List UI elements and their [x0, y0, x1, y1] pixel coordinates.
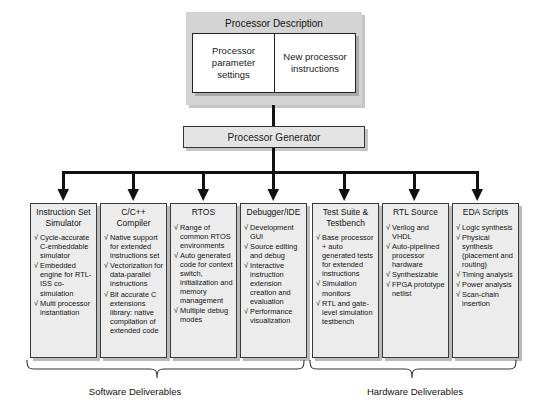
- arrow-head-down-icon-7: [472, 189, 484, 201]
- arrow-head-down-icon-5: [339, 189, 351, 201]
- arrow-head-down-icon-6: [409, 189, 421, 201]
- list-item: √Multi processor instantiation: [34, 299, 93, 317]
- distribution-bus-line: [62, 171, 478, 174]
- check-bullet-icon: √: [34, 299, 38, 308]
- list-item-label: Interactive instruction extension creati…: [250, 261, 291, 306]
- check-bullet-icon: √: [386, 270, 390, 279]
- list-item-label: Vectorization for data-parallel instruct…: [110, 261, 163, 288]
- check-bullet-icon: √: [244, 242, 248, 251]
- new-processor-instructions-cell: New processor instructions: [274, 34, 355, 92]
- check-bullet-icon: √: [316, 279, 320, 288]
- column-feature-list: √Native support for extended instruction…: [104, 233, 163, 335]
- check-bullet-icon: √: [456, 270, 460, 279]
- list-item-label: Physical synthesis (placement and routin…: [462, 233, 513, 269]
- list-item: √Auto-pipelined processor hardware: [386, 242, 445, 269]
- list-item: √Development GUI: [244, 223, 303, 241]
- hardware-deliverables-label: Hardware Deliverables: [300, 386, 530, 397]
- deliverable-column-rtl-source[interactable]: RTL Source √Verilog and VHDL √Auto-pipel…: [382, 203, 449, 358]
- list-item: √Auto generated code for context switch,…: [174, 251, 233, 306]
- check-bullet-icon: √: [104, 290, 108, 299]
- column-title: RTOS: [174, 207, 233, 218]
- processor-generator-box: Processor Generator: [183, 126, 365, 148]
- deliverable-column-c-cpp-compiler[interactable]: C/C++ Compiler √Native support for exten…: [100, 203, 167, 358]
- deliverable-column-test-suite-testbench[interactable]: Test Suite & Testbench √Base processor +…: [312, 203, 379, 358]
- connector-panel-to-generator: [272, 105, 275, 126]
- list-item: √Base processor + auto generated tests f…: [316, 233, 375, 278]
- list-item: √Power analysis: [456, 280, 515, 289]
- list-item-label: Simulation monitors: [322, 279, 357, 297]
- check-bullet-icon: √: [34, 261, 38, 270]
- processor-parameter-settings-cell: Processor parameter settings: [193, 34, 274, 92]
- list-item: √Performance visualization: [244, 307, 303, 325]
- processor-generator-label: Processor Generator: [228, 132, 321, 143]
- list-item-label: Multiple debug modes: [180, 306, 228, 324]
- list-item-label: Embedded engine for RTL-ISS co-simulatio…: [40, 261, 91, 297]
- list-item: √Multiple debug modes: [174, 306, 233, 324]
- list-item: √Timing analysis: [456, 270, 515, 279]
- list-item-label: Development GUI: [250, 223, 294, 241]
- list-item: √Source editing and debug: [244, 242, 303, 260]
- list-item-label: Multi processor instantiation: [40, 299, 90, 317]
- processor-description-inner-box: Processor parameter settings New process…: [192, 33, 356, 93]
- list-item-label: Cycle-accurate C-embeddable simulator: [40, 233, 89, 260]
- list-item: √RTL and gate-level simulation testbench: [316, 299, 375, 326]
- drop-line-2: [132, 171, 135, 189]
- arrow-head-down-icon-3: [198, 189, 210, 201]
- list-item-label: Logic synthesis: [462, 223, 513, 232]
- list-item: √Vectorization for data-parallel instruc…: [104, 261, 163, 288]
- column-feature-list: √Development GUI √Source editing and deb…: [244, 223, 303, 326]
- arrow-head-down-icon-2: [128, 189, 140, 201]
- list-item-label: Verilog and VHDL: [392, 223, 429, 241]
- column-title: Instruction Set Simulator: [34, 207, 93, 228]
- deliverable-column-instruction-set-simulator[interactable]: Instruction Set Simulator √Cycle-accurat…: [30, 203, 97, 358]
- list-item-label: FPGA prototype netlist: [392, 280, 445, 298]
- software-deliverables-brace-icon: [27, 360, 304, 378]
- check-bullet-icon: √: [244, 307, 248, 316]
- column-feature-list: √Logic synthesis √Physical synthesis (pl…: [456, 223, 515, 309]
- check-bullet-icon: √: [386, 223, 390, 232]
- list-item-label: Base processor + auto generated tests fo…: [322, 233, 373, 278]
- list-item: √Verilog and VHDL: [386, 223, 445, 241]
- processor-description-title: Processor Description: [186, 17, 362, 30]
- processor-description-panel: Processor Description Processor paramete…: [186, 12, 362, 105]
- check-bullet-icon: √: [34, 233, 38, 242]
- list-item-label: Range of common RTOS environments: [180, 223, 231, 250]
- check-bullet-icon: √: [174, 251, 178, 260]
- check-bullet-icon: √: [174, 223, 178, 232]
- list-item: √Scan-chain insertion: [456, 290, 515, 308]
- list-item-label: Performance visualization: [250, 307, 292, 325]
- check-bullet-icon: √: [244, 223, 248, 232]
- deliverable-column-debugger-ide[interactable]: Debugger/IDE √Development GUI √Source ed…: [240, 203, 307, 358]
- list-item-label: Synthesizable: [392, 270, 438, 279]
- list-item: √Cycle-accurate C-embeddable simulator: [34, 233, 93, 260]
- column-title: C/C++ Compiler: [104, 207, 163, 228]
- list-item-label: RTL and gate-level simulation testbench: [322, 299, 373, 326]
- column-title: Debugger/IDE: [244, 207, 303, 218]
- column-title: EDA Scripts: [456, 207, 515, 218]
- list-item-label: Source editing and debug: [250, 242, 297, 260]
- list-item-label: Bit accurate C extensions library: nativ…: [110, 290, 159, 335]
- check-bullet-icon: √: [316, 233, 320, 242]
- hardware-deliverables-brace-icon: [310, 360, 516, 378]
- check-bullet-icon: √: [456, 290, 460, 299]
- check-bullet-icon: √: [104, 261, 108, 270]
- check-bullet-icon: √: [244, 261, 248, 270]
- list-item: √Logic synthesis: [456, 223, 515, 232]
- drop-line-4: [272, 171, 275, 189]
- list-item-label: Auto generated code for context switch, …: [180, 251, 233, 305]
- list-item-label: Auto-pipelined processor hardware: [392, 242, 439, 269]
- column-feature-list: √Range of common RTOS environments √Auto…: [174, 223, 233, 325]
- drop-line-5: [343, 171, 346, 189]
- list-item-label: Timing analysis: [462, 270, 513, 279]
- check-bullet-icon: √: [456, 223, 460, 232]
- list-item: √Interactive instruction extension creat…: [244, 261, 303, 306]
- arrow-head-down-icon-1: [58, 189, 70, 201]
- list-item: √Range of common RTOS environments: [174, 223, 233, 250]
- deliverable-column-rtos[interactable]: RTOS √Range of common RTOS environments …: [170, 203, 237, 358]
- deliverable-column-eda-scripts[interactable]: EDA Scripts √Logic synthesis √Physical s…: [452, 203, 519, 358]
- check-bullet-icon: √: [174, 306, 178, 315]
- list-item-label: Scan-chain insertion: [462, 290, 499, 308]
- drop-line-6: [413, 171, 416, 189]
- column-title: Test Suite & Testbench: [316, 207, 375, 228]
- processor-generator-diagram: Processor Description Processor paramete…: [0, 0, 542, 417]
